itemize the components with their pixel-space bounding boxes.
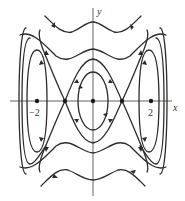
tick-label-neg2: −2 xyxy=(29,107,40,118)
separatrix-right-lower xyxy=(122,101,148,172)
center-point-origin xyxy=(91,99,95,103)
center-point-neg2 xyxy=(35,99,39,103)
y-axis-label: y xyxy=(96,6,102,17)
separatrix-left-upper xyxy=(39,30,65,101)
separatrix-right-upper xyxy=(122,30,148,101)
arrow-icon xyxy=(78,85,83,89)
saddle-point-neg1 xyxy=(63,99,67,103)
phase-portrait: y x −2 2 xyxy=(0,0,185,201)
separatrix-lower xyxy=(65,101,122,143)
separatrix-left-lower xyxy=(39,101,65,172)
arrow-icon xyxy=(39,137,44,142)
saddle-point-1 xyxy=(120,99,124,103)
arrow-icon xyxy=(39,60,44,65)
tick-label-2: 2 xyxy=(148,107,153,118)
arrow-icon xyxy=(142,60,147,65)
arrow-icon xyxy=(103,113,108,117)
arrow-icon xyxy=(142,137,147,142)
x-axis-label: x xyxy=(172,102,178,113)
separatrix-upper xyxy=(65,59,122,101)
center-point-2 xyxy=(149,99,153,103)
